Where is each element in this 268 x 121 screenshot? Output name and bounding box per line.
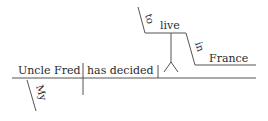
preposition-object-text: France [209,52,248,65]
pedestal-right-leg [171,62,178,72]
preposition-slant-line [186,33,195,65]
subject-text: Uncle Fred [18,64,80,77]
pedestal-left-leg [164,62,171,72]
verb-text: has decided [87,64,154,77]
preposition-text: in [193,41,206,54]
infinitive-slant-line [138,7,145,33]
modifier-slant-line [27,80,36,111]
infinitive-verb-text: live [160,19,180,32]
infinitive-marker-text: to [143,13,156,26]
sentence-diagram: Uncle Fred has decided live France to in… [0,0,268,121]
modifier-text: My [34,84,49,103]
